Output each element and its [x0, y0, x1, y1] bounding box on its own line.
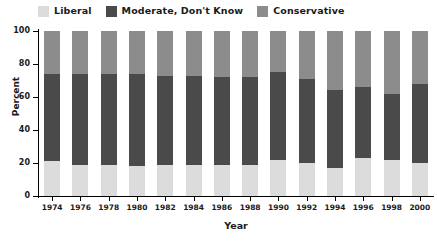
x-axis-tick [392, 196, 393, 201]
bar-segment[interactable] [214, 31, 230, 77]
bar-segment[interactable] [327, 31, 343, 90]
legend-item-label: Liberal [54, 6, 92, 16]
bar-segment[interactable] [101, 74, 117, 165]
bar-segment[interactable] [355, 87, 371, 158]
bar-segment[interactable] [186, 76, 202, 165]
plot-area [38, 31, 434, 196]
bar-segment[interactable] [129, 74, 145, 166]
legend-item[interactable]: Conservative [257, 6, 344, 17]
bar-segment[interactable] [157, 165, 173, 196]
bar-group[interactable] [355, 31, 371, 196]
bar-segment[interactable] [129, 166, 145, 196]
bar-segment[interactable] [299, 31, 315, 79]
x-axis-tick [420, 196, 421, 201]
bar-group[interactable] [327, 31, 343, 196]
x-axis-tick [194, 196, 195, 201]
bar-segment[interactable] [157, 31, 173, 76]
bar-segment[interactable] [242, 165, 258, 196]
chart-legend: LiberalModerate, Don't KnowConservative [0, 0, 437, 22]
bar-segment[interactable] [44, 31, 60, 74]
bar-segment[interactable] [242, 31, 258, 77]
x-axis-tick-label: 2000 [400, 204, 437, 212]
legend-swatch-icon [38, 6, 49, 17]
bar-segment[interactable] [186, 165, 202, 196]
bar-segment[interactable] [72, 31, 88, 74]
x-axis-tick [278, 196, 279, 201]
bar-group[interactable] [129, 31, 145, 196]
x-axis-tick [137, 196, 138, 201]
bar-group[interactable] [101, 31, 117, 196]
bar-segment[interactable] [270, 31, 286, 72]
x-axis-tick [109, 196, 110, 201]
x-axis-tick [363, 196, 364, 201]
bar-segment[interactable] [384, 160, 400, 196]
x-axis-tick [80, 196, 81, 201]
bar-segment[interactable] [412, 31, 428, 84]
legend-swatch-icon [257, 6, 268, 17]
legend-swatch-icon [106, 6, 117, 17]
bar-segment[interactable] [299, 79, 315, 163]
bar-group[interactable] [412, 31, 428, 196]
bar-segment[interactable] [299, 163, 315, 196]
bar-group[interactable] [242, 31, 258, 196]
bar-segment[interactable] [186, 31, 202, 76]
bar-group[interactable] [214, 31, 230, 196]
bar-segment[interactable] [72, 165, 88, 196]
bar-segment[interactable] [412, 84, 428, 163]
y-axis-title: Percent [12, 67, 21, 127]
bar-segment[interactable] [327, 90, 343, 168]
x-axis-tick [222, 196, 223, 201]
x-axis-tick [165, 196, 166, 201]
legend-item-label: Moderate, Don't Know [122, 6, 244, 16]
x-axis-title: Year [38, 221, 434, 231]
y-axis-tick-label: 40 [6, 126, 30, 134]
stacked-bar-chart-figure: LiberalModerate, Don't KnowConservative … [0, 0, 437, 241]
bar-segment[interactable] [355, 158, 371, 196]
bar-segment[interactable] [101, 165, 117, 196]
x-axis-line [38, 196, 434, 197]
y-axis-tick [33, 196, 38, 197]
bar-segment[interactable] [242, 77, 258, 164]
x-axis-tick [335, 196, 336, 201]
bar-segment[interactable] [101, 31, 117, 74]
bar-group[interactable] [157, 31, 173, 196]
bar-group[interactable] [299, 31, 315, 196]
x-axis-tick [307, 196, 308, 201]
bar-group[interactable] [270, 31, 286, 196]
y-axis-tick-label: 0 [6, 192, 30, 200]
bar-segment[interactable] [270, 160, 286, 196]
bar-segment[interactable] [72, 74, 88, 165]
bar-segment[interactable] [44, 74, 60, 161]
bar-segment[interactable] [412, 163, 428, 196]
x-axis-tick [250, 196, 251, 201]
y-axis-tick-label: 20 [6, 159, 30, 167]
legend-item[interactable]: Moderate, Don't Know [106, 6, 244, 17]
legend-item-label: Conservative [273, 6, 344, 16]
legend-item[interactable]: Liberal [38, 6, 92, 17]
bar-segment[interactable] [129, 31, 145, 74]
x-axis-tick [52, 196, 53, 201]
bar-segment[interactable] [384, 94, 400, 160]
y-axis-tick-label: 100 [6, 27, 30, 35]
bar-segment[interactable] [327, 168, 343, 196]
bar-group[interactable] [384, 31, 400, 196]
bar-segment[interactable] [44, 161, 60, 196]
bar-segment[interactable] [355, 31, 371, 87]
bar-segment[interactable] [214, 77, 230, 164]
bar-segment[interactable] [384, 31, 400, 94]
bar-group[interactable] [72, 31, 88, 196]
bar-segment[interactable] [157, 76, 173, 165]
bar-group[interactable] [44, 31, 60, 196]
bar-segment[interactable] [214, 165, 230, 196]
bar-group[interactable] [186, 31, 202, 196]
bar-segment[interactable] [270, 72, 286, 159]
